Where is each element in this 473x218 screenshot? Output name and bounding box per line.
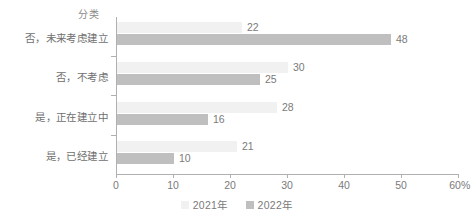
x-axis-tick: [344, 174, 345, 178]
legend: 2021年 2022年: [0, 197, 473, 212]
x-axis-unit: %: [461, 179, 470, 191]
legend-label: 2021年: [193, 197, 228, 212]
y-axis-tick: [111, 135, 116, 136]
bar-value-2022: 10: [179, 153, 191, 164]
y-axis-tick: [111, 56, 116, 57]
bar-2021: [117, 22, 242, 33]
bar-2021: [117, 62, 288, 73]
x-axis-label: 50: [386, 179, 416, 191]
x-axis-label: 10: [158, 179, 188, 191]
x-axis-tick: [173, 174, 174, 178]
legend-label: 2022年: [258, 197, 293, 212]
x-axis-label: 0: [101, 179, 131, 191]
x-axis-tick: [458, 174, 459, 178]
x-axis-tick: [116, 174, 117, 178]
x-axis-label: 30: [272, 179, 302, 191]
bar-value-2021: 22: [247, 22, 259, 33]
y-axis-tick: [111, 95, 116, 96]
legend-swatch-icon: [246, 201, 254, 209]
legend-swatch-icon: [181, 201, 189, 209]
x-axis-tick: [401, 174, 402, 178]
bar-2022: [117, 74, 260, 85]
bar-value-2022: 16: [213, 114, 225, 125]
y-axis-title: 分类: [78, 6, 99, 21]
bar-value-2021: 28: [282, 102, 294, 113]
bar-value-2021: 21: [242, 141, 254, 152]
x-axis-label: 40: [329, 179, 359, 191]
bar-value-2022: 48: [396, 34, 408, 45]
category-label: 是，已经建立: [0, 148, 108, 163]
bar-value-2022: 25: [265, 74, 277, 85]
bar-2021: [117, 102, 277, 113]
legend-item-2022[interactable]: 2022年: [246, 197, 293, 212]
x-axis-tick: [287, 174, 288, 178]
bar-2021: [117, 141, 237, 152]
bar-value-2021: 30: [293, 62, 305, 73]
bar-chart: 分类 否，未来考虑建立 22 48 否，不考虑 30 25 是，正在建立中 28…: [0, 0, 473, 218]
bar-2022: [117, 114, 208, 125]
x-axis-tick: [230, 174, 231, 178]
category-label: 否，未来考虑建立: [0, 30, 108, 45]
category-label: 是，正在建立中: [0, 109, 108, 124]
x-axis-label: 20: [215, 179, 245, 191]
legend-item-2021[interactable]: 2021年: [181, 197, 228, 212]
bar-2022: [117, 153, 174, 164]
category-label: 否，不考虑: [0, 69, 108, 84]
bar-2022: [117, 34, 391, 45]
